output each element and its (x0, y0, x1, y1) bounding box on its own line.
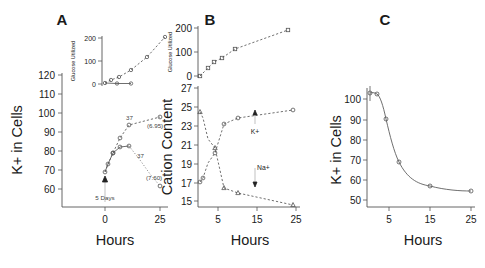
panel-b-k-arrowhead (253, 110, 257, 115)
figure-container: A 200 100 0 Glucose Utilized (0, 0, 485, 268)
panel-a-inset-axis-title: Glucose Utilized (70, 41, 76, 81)
panel-a-inset-curve-rising (105, 37, 165, 83)
panel-a-xlabel-title: Hours (96, 232, 135, 248)
panel-b-ylabel-19: 19 (181, 159, 193, 170)
panel-a-ylabel-120: 120 (38, 70, 55, 81)
panel-a-inset-ylabel-100: 100 (84, 58, 96, 65)
panel-b-ylabel-21: 21 (181, 140, 193, 151)
panel-a-letter: A (57, 11, 68, 28)
panel-c-ylabel-70: 70 (350, 155, 362, 166)
panel-c-ylabel-title: K+ in Cells (328, 115, 344, 185)
panel-a-ylabel-90: 90 (44, 127, 56, 138)
panel-b-ylabel-25: 25 (181, 102, 193, 113)
panel-a-inset-curve-flat (105, 83, 131, 84)
panel-b-letter: B (205, 11, 216, 28)
panel-a-days-label: 5 Days (95, 194, 114, 201)
panel-c-ylabel-100: 100 (344, 94, 361, 105)
panel-b-ylabel-17: 17 (181, 178, 193, 189)
panel-c-ylabel-90: 90 (350, 115, 362, 126)
panel-a-ylabel-100: 100 (38, 108, 55, 119)
panel-a-ylabel-60: 60 (44, 184, 56, 195)
panel-b-xlabel-5: 5 (215, 214, 221, 225)
panel-c-xlabel-25: 25 (465, 214, 477, 225)
panel-a-yticks: 120 110 100 90 80 70 60 (38, 70, 62, 195)
panel-b-series-na (200, 112, 293, 205)
panel-a-svg: A 200 100 0 Glucose Utilized (0, 0, 170, 268)
panel-a-days-arrowhead (102, 176, 107, 182)
panel-a-inset-ylabel-200: 200 (84, 35, 96, 42)
panel-c: C 100 90 80 70 60 50 5 (325, 0, 485, 268)
panel-a-inset-ylabel-0: 0 (92, 81, 96, 88)
panel-b-markers-k (198, 108, 295, 184)
panel-b-svg: B 200 100 0 Glucose Utilized (160, 0, 330, 268)
panel-c-xticks: 5 15 25 (386, 207, 477, 225)
panel-b-glucose-markers (198, 28, 289, 77)
panel-b-xlabel-25: 25 (290, 214, 302, 225)
panel-a-inset-markers (103, 35, 166, 85)
panel-b-glucose-ylabel-200: 200 (175, 23, 192, 34)
panel-a-ylabel-110: 110 (39, 89, 55, 100)
panel-c-xlabel-5: 5 (386, 214, 392, 225)
panel-b-yticks: 27 25 23 21 19 17 15 (181, 83, 198, 207)
panel-a-ylabel-title: K+ in Cells (9, 105, 25, 175)
panel-b-xlabel-title: Hours (231, 232, 270, 248)
panel-b-markers-na (198, 110, 295, 207)
panel-c-letter: C (380, 11, 391, 28)
panel-c-yticks: 100 90 80 70 60 50 (344, 94, 367, 206)
panel-b-series-k (200, 110, 293, 182)
panel-b-ylabel-15: 15 (181, 196, 193, 207)
panel-b-label-k: K+ (251, 128, 260, 135)
panel-a-label-upper-temp: 37 (126, 114, 133, 121)
panel-a-label-lower-temp: 37 (137, 152, 144, 159)
panel-b-glucose-ylabel-0: 0 (186, 71, 192, 82)
panel-a-markers-lower (111, 144, 162, 188)
panel-a-ylabel-70: 70 (44, 165, 56, 176)
panel-b-xlabel-15: 15 (251, 214, 263, 225)
panel-a: A 200 100 0 Glucose Utilized (0, 0, 170, 268)
panel-c-xlabel-15: 15 (424, 214, 436, 225)
panel-a-xlabel-0: 0 (102, 214, 108, 225)
panel-b-ylabel-23: 23 (181, 121, 193, 132)
panel-b-label-na: Na+ (257, 164, 270, 171)
panel-c-markers (368, 91, 473, 193)
panel-b-xticks: 5 15 25 (215, 207, 302, 225)
panel-c-ylabel-80: 80 (350, 135, 362, 146)
panel-a-ylabel-80: 80 (44, 146, 56, 157)
panel-b-ylabel-title: Cation Content (159, 99, 175, 196)
panel-b-glucose-axis-title: Glucose Utilized (167, 32, 173, 72)
panel-c-series-curve (370, 93, 471, 191)
panel-c-ylabel-50: 50 (350, 195, 362, 206)
panel-b-ylabel-27: 27 (181, 83, 193, 94)
panel-a-xticks: 0 25 (102, 207, 166, 225)
panel-b-na-arrowhead (253, 182, 257, 187)
panel-b-glucose-ylabel-100: 100 (175, 47, 192, 58)
panel-c-ylabel-60: 60 (350, 175, 362, 186)
panel-a-series-lower-solid (105, 146, 129, 172)
panel-b-glucose-curve (200, 30, 288, 76)
panel-c-svg: C 100 90 80 70 60 50 5 (325, 0, 485, 268)
panel-b: B 200 100 0 Glucose Utilized (160, 0, 330, 268)
panel-c-xlabel-title: Hours (404, 232, 443, 248)
